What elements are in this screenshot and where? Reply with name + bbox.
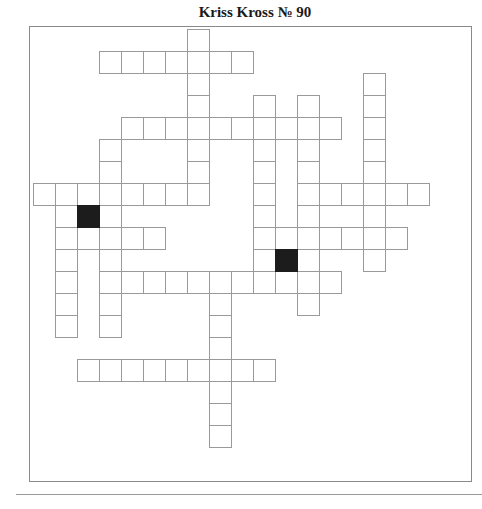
letter-cell[interactable] bbox=[55, 183, 78, 206]
letter-cell[interactable] bbox=[385, 183, 408, 206]
letter-cell[interactable] bbox=[253, 227, 276, 250]
letter-cell[interactable] bbox=[209, 315, 232, 338]
letter-cell[interactable] bbox=[297, 293, 320, 316]
letter-cell[interactable] bbox=[55, 249, 78, 272]
letter-cell[interactable] bbox=[297, 95, 320, 118]
letter-cell[interactable] bbox=[341, 227, 364, 250]
letter-cell[interactable] bbox=[99, 249, 122, 272]
letter-cell[interactable] bbox=[363, 161, 386, 184]
letter-cell[interactable] bbox=[165, 51, 188, 74]
letter-cell[interactable] bbox=[297, 227, 320, 250]
letter-cell[interactable] bbox=[55, 205, 78, 228]
letter-cell[interactable] bbox=[231, 271, 254, 294]
letter-cell[interactable] bbox=[33, 183, 56, 206]
letter-cell[interactable] bbox=[253, 271, 276, 294]
letter-cell[interactable] bbox=[187, 183, 210, 206]
letter-cell[interactable] bbox=[363, 183, 386, 206]
letter-cell[interactable] bbox=[55, 227, 78, 250]
letter-cell[interactable] bbox=[363, 117, 386, 140]
letter-cell[interactable] bbox=[319, 227, 342, 250]
letter-cell[interactable] bbox=[297, 205, 320, 228]
letter-cell[interactable] bbox=[319, 183, 342, 206]
letter-cell[interactable] bbox=[209, 51, 232, 74]
letter-cell[interactable] bbox=[77, 183, 100, 206]
letter-cell[interactable] bbox=[253, 249, 276, 272]
letter-cell[interactable] bbox=[253, 161, 276, 184]
letter-cell[interactable] bbox=[187, 139, 210, 162]
letter-cell[interactable] bbox=[341, 183, 364, 206]
letter-cell[interactable] bbox=[121, 51, 144, 74]
letter-cell[interactable] bbox=[99, 293, 122, 316]
letter-cell[interactable] bbox=[275, 227, 298, 250]
letter-cell[interactable] bbox=[165, 359, 188, 382]
letter-cell[interactable] bbox=[363, 139, 386, 162]
letter-cell[interactable] bbox=[121, 359, 144, 382]
letter-cell[interactable] bbox=[165, 183, 188, 206]
letter-cell[interactable] bbox=[319, 117, 342, 140]
letter-cell[interactable] bbox=[77, 359, 100, 382]
letter-cell[interactable] bbox=[99, 359, 122, 382]
letter-cell[interactable] bbox=[363, 227, 386, 250]
letter-cell[interactable] bbox=[231, 117, 254, 140]
letter-cell[interactable] bbox=[363, 205, 386, 228]
letter-cell[interactable] bbox=[363, 249, 386, 272]
letter-cell[interactable] bbox=[143, 51, 166, 74]
letter-cell[interactable] bbox=[143, 183, 166, 206]
letter-cell[interactable] bbox=[55, 271, 78, 294]
letter-cell[interactable] bbox=[55, 293, 78, 316]
letter-cell[interactable] bbox=[55, 315, 78, 338]
letter-cell[interactable] bbox=[363, 95, 386, 118]
letter-cell[interactable] bbox=[209, 117, 232, 140]
letter-cell[interactable] bbox=[99, 139, 122, 162]
letter-cell[interactable] bbox=[407, 183, 430, 206]
letter-cell[interactable] bbox=[209, 425, 232, 448]
letter-cell[interactable] bbox=[77, 227, 100, 250]
letter-cell[interactable] bbox=[99, 161, 122, 184]
letter-cell[interactable] bbox=[121, 183, 144, 206]
letter-cell[interactable] bbox=[231, 359, 254, 382]
letter-cell[interactable] bbox=[187, 271, 210, 294]
letter-cell[interactable] bbox=[121, 271, 144, 294]
letter-cell[interactable] bbox=[231, 51, 254, 74]
letter-cell[interactable] bbox=[121, 227, 144, 250]
letter-cell[interactable] bbox=[99, 315, 122, 338]
letter-cell[interactable] bbox=[253, 117, 276, 140]
letter-cell[interactable] bbox=[165, 271, 188, 294]
letter-cell[interactable] bbox=[99, 271, 122, 294]
letter-cell[interactable] bbox=[275, 117, 298, 140]
letter-cell[interactable] bbox=[253, 359, 276, 382]
letter-cell[interactable] bbox=[209, 293, 232, 316]
letter-cell[interactable] bbox=[253, 139, 276, 162]
letter-cell[interactable] bbox=[99, 51, 122, 74]
letter-cell[interactable] bbox=[187, 117, 210, 140]
letter-cell[interactable] bbox=[297, 249, 320, 272]
letter-cell[interactable] bbox=[143, 271, 166, 294]
letter-cell[interactable] bbox=[187, 51, 210, 74]
letter-cell[interactable] bbox=[297, 139, 320, 162]
letter-cell[interactable] bbox=[253, 95, 276, 118]
letter-cell[interactable] bbox=[143, 117, 166, 140]
letter-cell[interactable] bbox=[187, 95, 210, 118]
letter-cell[interactable] bbox=[297, 183, 320, 206]
letter-cell[interactable] bbox=[165, 117, 188, 140]
letter-cell[interactable] bbox=[253, 183, 276, 206]
letter-cell[interactable] bbox=[99, 227, 122, 250]
letter-cell[interactable] bbox=[121, 117, 144, 140]
letter-cell[interactable] bbox=[143, 227, 166, 250]
letter-cell[interactable] bbox=[297, 117, 320, 140]
letter-cell[interactable] bbox=[253, 205, 276, 228]
letter-cell[interactable] bbox=[187, 161, 210, 184]
letter-cell[interactable] bbox=[385, 227, 408, 250]
letter-cell[interactable] bbox=[297, 161, 320, 184]
letter-cell[interactable] bbox=[363, 73, 386, 96]
letter-cell[interactable] bbox=[209, 271, 232, 294]
letter-cell[interactable] bbox=[187, 29, 210, 52]
letter-cell[interactable] bbox=[187, 359, 210, 382]
letter-cell[interactable] bbox=[99, 183, 122, 206]
letter-cell[interactable] bbox=[297, 271, 320, 294]
letter-cell[interactable] bbox=[99, 205, 122, 228]
letter-cell[interactable] bbox=[209, 403, 232, 426]
letter-cell[interactable] bbox=[319, 271, 342, 294]
letter-cell[interactable] bbox=[209, 337, 232, 360]
letter-cell[interactable] bbox=[143, 359, 166, 382]
